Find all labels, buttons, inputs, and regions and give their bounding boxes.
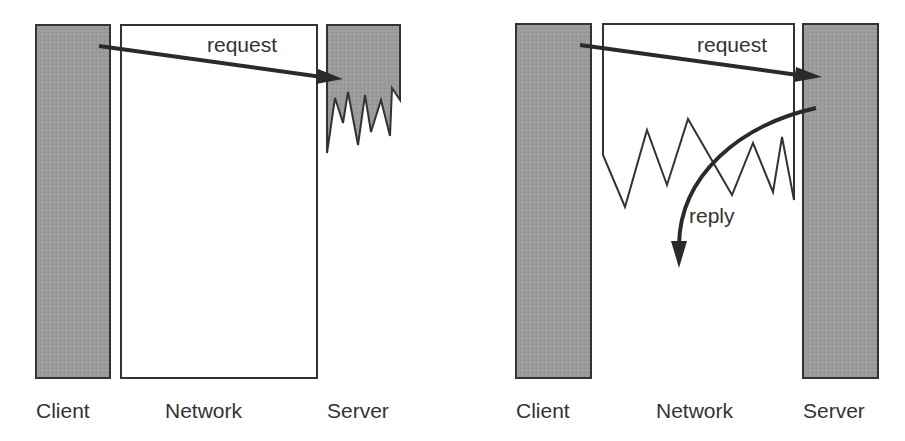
client-label: Client [516,399,570,422]
failure-diagram: request Client Network Server request re… [0,0,905,441]
network-box [121,25,317,378]
client-label: Client [36,399,90,422]
client-box [36,25,110,378]
server-label: Server [327,399,389,422]
request-label: request [207,33,277,56]
reply-label: reply [689,204,735,227]
network-label: Network [656,399,734,422]
reply-arrow-head [671,241,687,268]
server-label: Server [803,399,865,422]
client-box [516,24,591,378]
network-label: Network [165,399,243,422]
request-label: request [697,33,767,56]
left-panel: request Client Network Server [36,25,400,422]
right-panel: request reply Client Network Server [516,24,878,422]
crashed-server-shape [327,25,400,153]
